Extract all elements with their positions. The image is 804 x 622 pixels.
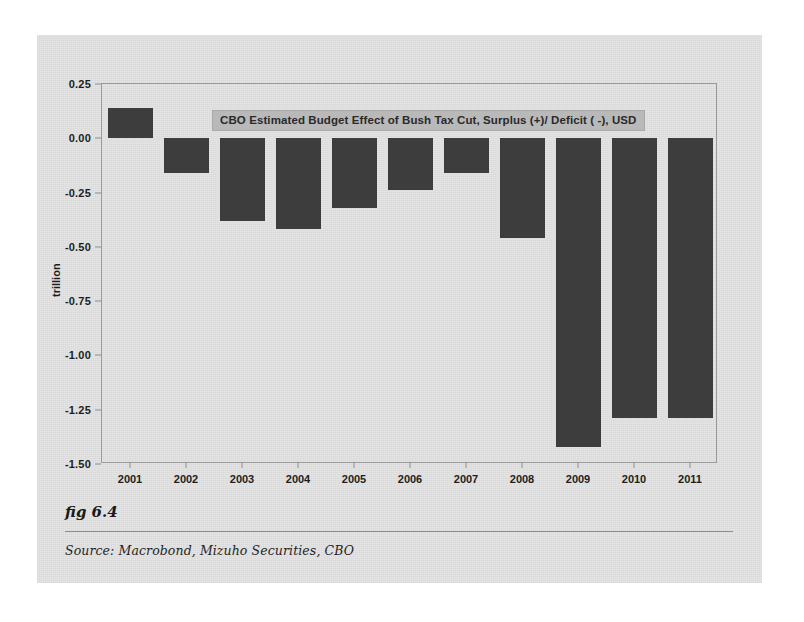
x-tick-label-2011: 2011 xyxy=(678,473,702,485)
y-tick-mark xyxy=(95,355,101,356)
bar-2011 xyxy=(668,138,713,418)
x-tick-mark xyxy=(186,462,187,468)
plot-inner xyxy=(102,84,716,462)
x-tick-mark xyxy=(298,462,299,468)
x-tick-label-2006: 2006 xyxy=(398,473,422,485)
x-tick-label-2003: 2003 xyxy=(230,473,254,485)
bar-2010 xyxy=(612,138,657,418)
x-tick-label-2001: 2001 xyxy=(118,473,142,485)
y-tick-mark xyxy=(95,464,101,465)
x-tick-mark xyxy=(242,462,243,468)
bar-2002 xyxy=(164,138,209,173)
screenshot-root: trillion 0.250.00-0.25-0.50-0.75-1.00-1.… xyxy=(0,0,804,622)
x-tick-label-2009: 2009 xyxy=(566,473,590,485)
x-tick-mark xyxy=(354,462,355,468)
chart-title-legend: CBO Estimated Budget Effect of Bush Tax … xyxy=(212,110,645,131)
y-tick-mark xyxy=(95,192,101,193)
figure-number-label: fig 6.4 xyxy=(65,503,118,521)
plot-frame: 0.250.00-0.25-0.50-0.75-1.00-1.25-1.50 2… xyxy=(101,83,717,463)
y-axis-label: trillion xyxy=(50,263,62,297)
x-tick-mark xyxy=(634,462,635,468)
x-tick-mark xyxy=(410,462,411,468)
bar-2005 xyxy=(332,138,377,207)
bar-2001 xyxy=(108,108,153,138)
bar-2003 xyxy=(220,138,265,221)
x-tick-mark xyxy=(522,462,523,468)
y-tick-mark xyxy=(95,246,101,247)
x-tick-mark xyxy=(466,462,467,468)
x-tick-label-2008: 2008 xyxy=(510,473,534,485)
bar-2008 xyxy=(500,138,545,238)
x-tick-label-2010: 2010 xyxy=(622,473,646,485)
y-tick-mark xyxy=(95,409,101,410)
x-tick-label-2005: 2005 xyxy=(342,473,366,485)
bar-2006 xyxy=(388,138,433,190)
x-tick-label-2002: 2002 xyxy=(174,473,198,485)
y-tick-mark xyxy=(95,84,101,85)
figure-card: trillion 0.250.00-0.25-0.50-0.75-1.00-1.… xyxy=(37,35,762,583)
x-tick-mark xyxy=(130,462,131,468)
figure-source-text: Source: Macrobond, Mizuho Securities, CB… xyxy=(65,543,354,558)
bar-2007 xyxy=(444,138,489,173)
figure-divider xyxy=(65,531,733,532)
chart-area: trillion 0.250.00-0.25-0.50-0.75-1.00-1.… xyxy=(37,35,762,485)
y-tick-mark xyxy=(95,138,101,139)
bar-2009 xyxy=(556,138,601,446)
x-tick-label-2004: 2004 xyxy=(286,473,310,485)
bar-2004 xyxy=(276,138,321,229)
y-tick-mark xyxy=(95,301,101,302)
x-tick-label-2007: 2007 xyxy=(454,473,478,485)
x-tick-mark xyxy=(578,462,579,468)
x-tick-mark xyxy=(690,462,691,468)
